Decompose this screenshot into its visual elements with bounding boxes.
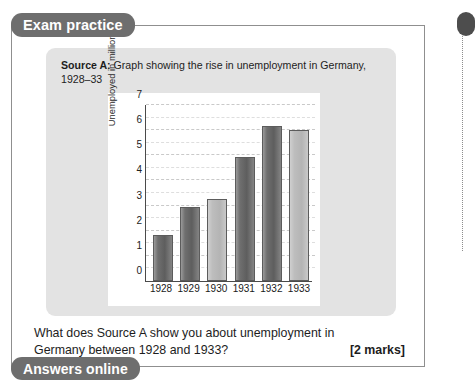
chart-x-axis-labels: 192819291930193119321933 [146, 283, 312, 294]
exam-practice-panel: Source A: Graph showing the rise in unem… [11, 25, 425, 367]
y-tick-label: 2 [136, 214, 142, 225]
source-card: Source A: Graph showing the rise in unem… [46, 48, 396, 316]
tab-exam-practice[interactable]: Exam practice [11, 13, 135, 37]
bar-1929 [180, 207, 200, 281]
y-tick-label: 6 [136, 114, 142, 125]
tab-answers-online[interactable]: Answers online [11, 357, 140, 380]
y-tick-label: 1 [136, 239, 142, 250]
chart-plot-area: 01234567 [145, 105, 312, 282]
bar-1928 [153, 235, 173, 282]
y-tick-label: 0 [136, 265, 142, 276]
x-tick-label: 1932 [258, 283, 284, 294]
bar-1932 [262, 126, 282, 281]
bar-1931 [235, 157, 255, 281]
question-line-2: Germany between 1928 and 1933? [34, 342, 228, 359]
x-tick-label: 1930 [203, 283, 229, 294]
question-text: What does Source A show you about unempl… [34, 325, 414, 358]
bar-1930 [207, 199, 227, 281]
question-line-2-row: Germany between 1928 and 1933? [2 marks] [34, 342, 405, 359]
bar-1933 [289, 130, 309, 281]
chart-bars [147, 105, 313, 281]
x-tick-label: 1929 [176, 283, 202, 294]
question-line-1: What does Source A show you about unempl… [34, 325, 414, 342]
adjacent-tab-fragment [457, 12, 475, 36]
adjacent-dotted-rule [462, 36, 463, 251]
x-tick-label: 1933 [286, 283, 312, 294]
y-tick-label: 7 [136, 89, 142, 100]
marks-badge: [2 marks] [350, 342, 405, 359]
y-tick-label: 3 [136, 189, 142, 200]
source-label: Source A: [61, 59, 111, 71]
y-tick-label: 4 [136, 164, 142, 175]
unemployment-bar-chart: Unemployed in millions 01234567 19281929… [108, 93, 320, 306]
y-tick-label: 5 [136, 139, 142, 150]
x-tick-label: 1931 [231, 283, 257, 294]
x-tick-label: 1928 [148, 283, 174, 294]
